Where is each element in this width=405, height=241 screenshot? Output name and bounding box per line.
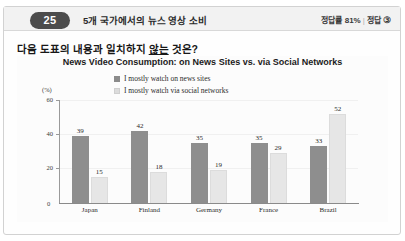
bar-value-brazil-social: 52 [327, 105, 349, 113]
bar-value-germany-news-sites: 35 [188, 134, 210, 142]
bar-wrap-france-social: 29 [270, 100, 287, 203]
legend-item-social-networks: I mostly watch via social networks [114, 85, 228, 96]
bar-wrap-japan-social: 15 [91, 100, 108, 203]
y-tick-label-0: 0 [47, 200, 50, 207]
bar-wrap-finland-social: 18 [150, 100, 167, 203]
bar-brazil-social [329, 114, 346, 203]
bar-wrap-japan-news-sites: 39 [72, 100, 89, 203]
x-label-france: France [249, 206, 289, 214]
answer-key-value: ③ [383, 15, 391, 25]
bar-value-france-social: 29 [267, 144, 289, 152]
x-axis-labels: Japan Finland Germany France Brazil [60, 206, 358, 214]
bar-group-france: 35 29 [251, 100, 287, 203]
x-label-finland: Finland [129, 206, 169, 214]
bar-group-germany: 35 19 [191, 100, 227, 203]
legend-item-news-sites: I mostly watch on news sites [114, 73, 228, 84]
x-label-brazil: Brazil [308, 206, 348, 214]
exam-page: 25 5개 국가에서의 뉴스 영상 소비 정답률 81%|정답 ③ 다음 도표의… [0, 0, 405, 241]
accuracy-rate-label: 정답률 81% [321, 16, 360, 25]
bar-japan-news-sites [72, 136, 89, 203]
bar-wrap-brazil-social: 52 [329, 100, 346, 203]
bar-value-finland-news-sites: 42 [129, 122, 151, 130]
bar-value-japan-news-sites: 39 [69, 127, 91, 135]
bar-germany-social [210, 170, 227, 203]
question-prompt: 다음 도표의 내용과 일치하지 않는 것은? [17, 41, 198, 56]
bar-group-brazil: 33 52 [310, 100, 346, 203]
y-tick-label-40: 40 [39, 130, 53, 137]
bar-germany-news-sites [191, 143, 208, 203]
x-label-germany: Germany [189, 206, 229, 214]
question-prompt-prefix: 다음 도표의 내용과 일치하지 [17, 43, 149, 55]
legend-swatch-icon-series-2 [114, 88, 120, 94]
legend-swatch-icon-series-1 [114, 76, 120, 82]
legend-label-series-2: I mostly watch via social networks [124, 86, 228, 95]
bar-finland-news-sites [131, 131, 148, 203]
y-tick-label-60: 60 [39, 96, 53, 103]
bar-wrap-germany-news-sites: 35 [191, 100, 208, 203]
question-stats: 정답률 81%|정답 ③ [321, 14, 391, 25]
bar-value-germany-social: 19 [207, 161, 229, 169]
bar-wrap-germany-social: 19 [210, 100, 227, 203]
question-prompt-negation: 않는 [149, 43, 169, 55]
chart-panel: News Video Consumption: on News Sites vs… [17, 56, 388, 222]
bar-france-social [270, 153, 287, 203]
answer-key-label: 정답 [367, 16, 381, 25]
bar-value-finland-social: 18 [148, 163, 170, 171]
bar-group-finland: 42 18 [131, 100, 167, 203]
bar-wrap-brazil-news-sites: 33 [310, 100, 327, 203]
chart-legend: I mostly watch on news sites I mostly wa… [114, 73, 228, 97]
question-topic-title: 5개 국가에서의 뉴스 영상 소비 [83, 13, 207, 27]
bar-finland-social [150, 172, 167, 203]
y-tick-label-20: 20 [39, 164, 53, 171]
y-axis-unit-label: (%) [42, 86, 52, 93]
bar-value-brazil-news-sites: 33 [308, 137, 330, 145]
question-prompt-suffix: 것은? [169, 43, 198, 55]
bar-value-france-news-sites: 35 [248, 134, 270, 142]
bar-group-japan: 39 15 [72, 100, 108, 203]
bar-japan-social [91, 177, 108, 203]
bar-wrap-france-news-sites: 35 [251, 100, 268, 203]
x-label-japan: Japan [70, 206, 110, 214]
bar-france-news-sites [251, 143, 268, 203]
legend-label-series-1: I mostly watch on news sites [124, 74, 210, 83]
bar-wrap-finland-news-sites: 42 [131, 100, 148, 203]
chart-title: News Video Consumption: on News Sites vs… [17, 57, 388, 67]
x-axis-line [59, 203, 359, 204]
bar-groups: 39 15 42 18 35 [60, 100, 358, 203]
bar-brazil-news-sites [310, 146, 327, 203]
bar-value-japan-social: 15 [88, 168, 110, 176]
question-number-badge: 25 [30, 12, 70, 29]
